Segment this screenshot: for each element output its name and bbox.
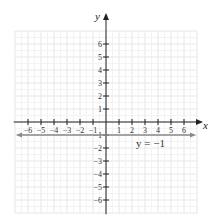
x-tick-label: −2 — [76, 126, 85, 135]
axes — [14, 13, 203, 214]
y-tick-label: −6 — [93, 196, 102, 205]
x-tick-label: 6 — [182, 126, 186, 135]
x-tick-label: −3 — [63, 126, 72, 135]
y-tick-label: 6 — [98, 40, 102, 49]
line-equation-label: y = −1 — [136, 137, 165, 149]
x-tick-label: 4 — [156, 126, 160, 135]
x-tick-label: 1 — [117, 126, 121, 135]
left-arrow-icon — [16, 133, 22, 138]
x-axis-label: x — [202, 119, 208, 131]
x-tick-label: −5 — [37, 126, 46, 135]
y-tick-label: 1 — [98, 105, 102, 114]
right-arrow-icon — [190, 133, 196, 138]
x-tick-label: 2 — [130, 126, 134, 135]
y-tick-label: −3 — [93, 157, 102, 166]
y-axis-label: y — [94, 10, 100, 22]
y-tick-label: −4 — [93, 170, 102, 179]
y-tick-label: 2 — [98, 92, 102, 101]
x-tick-label: −4 — [50, 126, 59, 135]
x-axis-arrow-icon — [196, 119, 203, 125]
y-tick-label: 5 — [98, 53, 102, 62]
coordinate-plane: −6−5−4−3−2−1123456−6−5−4−3−2−1123456 x y… — [0, 0, 221, 224]
y-tick-label: 4 — [98, 66, 102, 75]
y-tick-label: −5 — [93, 183, 102, 192]
y-tick-label: 3 — [98, 79, 102, 88]
x-tick-label: 5 — [169, 126, 173, 135]
x-tick-label: 3 — [143, 126, 147, 135]
y-tick-label: −2 — [93, 144, 102, 153]
y-axis-arrow-icon — [103, 13, 109, 20]
x-tick-label: −6 — [24, 126, 33, 135]
